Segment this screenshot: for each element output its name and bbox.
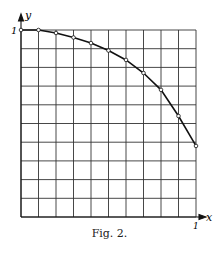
data-point-marker	[124, 58, 128, 62]
data-point-marker	[72, 36, 76, 40]
x-axis-label: x	[206, 211, 213, 224]
data-point-marker	[19, 28, 23, 32]
figure-caption: Fig. 2.	[0, 227, 219, 240]
data-point-marker	[89, 41, 93, 45]
data-point-marker	[159, 88, 163, 92]
chart: y 1 x 1	[0, 0, 219, 253]
y-tick-label: 1	[11, 25, 17, 36]
grid	[21, 30, 196, 217]
data-point-marker	[107, 49, 111, 53]
data-point-marker	[177, 114, 181, 118]
data-point-marker	[37, 28, 41, 32]
data-point-marker	[142, 71, 146, 75]
data-point-marker	[194, 144, 198, 148]
data-point-marker	[54, 31, 58, 35]
y-axis-label: y	[24, 9, 32, 22]
